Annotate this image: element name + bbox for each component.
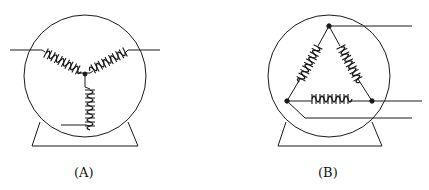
panel-a-label: (A) xyxy=(74,165,94,180)
panel-b-label: (B) xyxy=(318,165,338,180)
motor-b-coil-left xyxy=(295,45,323,85)
motor-b-housing xyxy=(268,15,390,137)
motor-a-coil-1 xyxy=(44,49,84,77)
motor-diagrams xyxy=(0,0,429,190)
motor-a-coil-2 xyxy=(87,48,127,76)
motor-a-coil-3 xyxy=(85,90,95,130)
motor-a-neutral-node xyxy=(83,72,87,76)
motor-b-coil-bottom xyxy=(312,94,352,104)
motor-b-lead-3 xyxy=(287,101,412,118)
motor-b-delta xyxy=(268,15,422,146)
motor-a-wye xyxy=(10,15,160,146)
motor-b-coil-right xyxy=(337,45,365,85)
